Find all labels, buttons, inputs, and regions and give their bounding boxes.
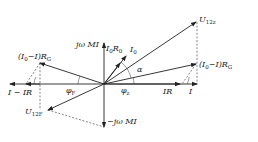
label-jwmi: jω MI — [74, 40, 100, 49]
label-phi-f: φF — [66, 86, 76, 96]
label-right-rg: (I0−I)RG — [199, 60, 232, 70]
label-u12f: U12F — [25, 107, 43, 117]
phasor-diagram: U12z (I0−I)RG I0 I0R0 jω MI (I0−I)RG I −… — [0, 0, 258, 142]
label-i: I — [188, 87, 193, 96]
label-minus-jwmi: −jω MI — [107, 117, 137, 126]
label-ir: IR — [162, 87, 172, 96]
label-i0r0: I0R0 — [105, 44, 123, 54]
label-alpha: α — [137, 65, 143, 74]
label-u12z: U12z — [199, 15, 216, 25]
vector-u12f — [48, 84, 104, 110]
label-left-rg: (I0−I)RG — [18, 52, 51, 62]
vector-left-rg — [40, 63, 104, 84]
label-phi-z: φz — [121, 86, 130, 96]
label-minus-i-ir: I − IR — [7, 88, 32, 97]
angle-arcs — [34, 62, 189, 84]
label-i0: I0 — [129, 45, 137, 55]
